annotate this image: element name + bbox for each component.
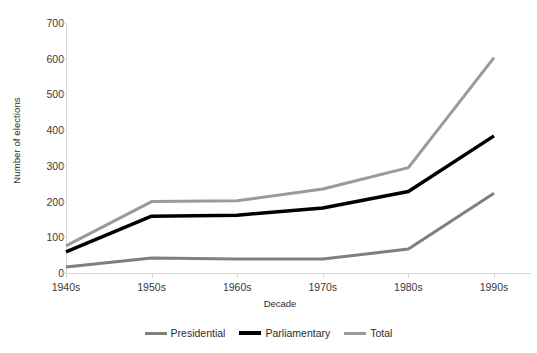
x-axis-tick-mark [66, 273, 67, 278]
x-axis-title: Decade [66, 298, 494, 309]
legend-swatch-icon [145, 332, 167, 335]
y-axis-tick-label: 600 [16, 53, 64, 65]
y-axis-tick-mark [61, 237, 66, 238]
y-axis-tick-labels: 0100200300400500600700 [12, 0, 64, 353]
y-axis-tick-mark [61, 201, 66, 202]
x-axis-tick-label: 1960s [197, 281, 277, 293]
y-axis-tick-label: 0 [16, 267, 64, 279]
x-axis-tick-label: 1990s [454, 281, 534, 293]
x-axis-tick-label: 1950s [112, 281, 192, 293]
y-axis-tick-mark [61, 130, 66, 131]
series-line-total [66, 58, 494, 246]
line-chart: Number of elections 01002003004005006007… [0, 0, 537, 353]
x-axis-tick-label: 1940s [26, 281, 106, 293]
x-axis-line [66, 273, 531, 274]
y-axis-tick-mark [61, 94, 66, 95]
legend-swatch-icon [239, 331, 261, 335]
legend-item-total[interactable]: Total [344, 327, 392, 339]
x-axis-tick-label: 1980s [368, 281, 448, 293]
x-axis-tick-mark [152, 273, 153, 278]
x-axis-tick-label: 1970s [283, 281, 363, 293]
legend-swatch-icon [344, 332, 366, 335]
y-axis-tick-mark [61, 23, 66, 24]
series-line-presidential [66, 193, 494, 267]
legend-item-presidential[interactable]: Presidential [145, 327, 226, 339]
y-axis-tick-mark [61, 58, 66, 59]
x-axis-tick-mark [323, 273, 324, 278]
legend-item-label: Total [370, 327, 392, 339]
y-axis-tick-label: 400 [16, 124, 64, 136]
y-axis-tick-mark [61, 165, 66, 166]
y-axis-tick-label: 200 [16, 196, 64, 208]
y-axis-tick-label: 700 [16, 17, 64, 29]
y-axis-tick-label: 100 [16, 231, 64, 243]
y-axis-tick-label: 500 [16, 88, 64, 100]
chart-legend: PresidentialParliamentaryTotal [0, 327, 537, 339]
plot-area [66, 23, 494, 273]
x-axis-tick-mark [408, 273, 409, 278]
legend-item-label: Parliamentary [265, 327, 330, 339]
legend-item-parliamentary[interactable]: Parliamentary [239, 327, 330, 339]
x-axis-tick-mark [494, 273, 495, 278]
legend-item-label: Presidential [171, 327, 226, 339]
x-axis-tick-mark [237, 273, 238, 278]
series-canvas [66, 23, 494, 273]
y-axis-tick-label: 300 [16, 160, 64, 172]
